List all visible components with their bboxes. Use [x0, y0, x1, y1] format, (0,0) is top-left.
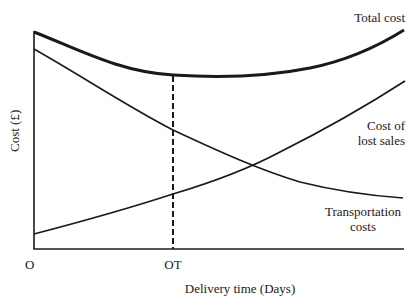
cost-of-lost-sales-label-line2: lost sales: [325, 133, 405, 148]
transportation-costs-label-line2: costs: [318, 219, 408, 234]
total-cost-label: Total cost: [325, 10, 405, 25]
cost-tradeoff-chart: [0, 0, 419, 305]
y-axis-label: Cost (£): [7, 110, 23, 152]
total-cost-curve: [34, 30, 404, 76]
x-axis-label: Delivery time (Days): [140, 281, 340, 296]
cost-of-lost-sales-label-line1: Cost of: [325, 118, 405, 133]
origin-tick-label: O: [25, 257, 34, 272]
transportation-costs-label-line1: Transportation: [318, 204, 408, 219]
ot-tick-label: OT: [158, 257, 188, 272]
